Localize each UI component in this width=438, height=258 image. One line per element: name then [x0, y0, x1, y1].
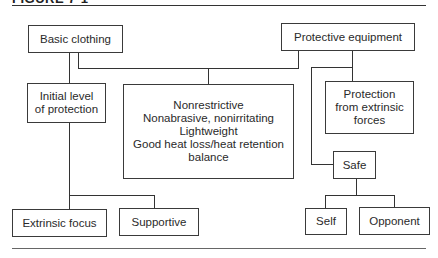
node-supportive: Supportive	[119, 208, 199, 236]
connector	[352, 50, 353, 81]
node-label: Protective equipment	[294, 31, 402, 44]
node-label: Self	[316, 215, 336, 228]
node-label: Extrinsic focus	[22, 217, 96, 230]
top-rule	[12, 5, 426, 6]
node-initial-level-of-protection: Initial level of protection	[27, 83, 106, 123]
node-label: Initial level of protection	[35, 90, 98, 116]
node-protection-extrinsic-forces: Protection from extrinsic forces	[325, 81, 414, 134]
node-self: Self	[305, 208, 347, 235]
connector	[78, 68, 299, 69]
node-opponent: Opponent	[359, 207, 430, 235]
node-label: Nonrestrictive Nonabrasive, nonirritatin…	[133, 99, 284, 164]
node-label: Safe	[343, 159, 367, 172]
connector	[311, 164, 333, 165]
node-protective-equipment: Protective equipment	[281, 23, 415, 51]
bottom-rule	[12, 248, 426, 249]
connector	[298, 50, 299, 68]
connector	[69, 195, 155, 196]
connector	[311, 67, 352, 68]
connector	[311, 67, 312, 165]
connector	[356, 178, 357, 195]
node-extrinsic-focus: Extrinsic focus	[12, 209, 107, 237]
connector	[154, 195, 155, 208]
connector	[208, 68, 209, 84]
connector	[78, 52, 79, 68]
node-label: Opponent	[369, 215, 420, 228]
node-safe: Safe	[333, 151, 376, 179]
node-basic-clothing: Basic clothing	[28, 25, 123, 53]
connector	[325, 195, 395, 196]
node-properties: Nonrestrictive Nonabrasive, nonirritatin…	[123, 84, 294, 179]
node-label: Basic clothing	[40, 33, 111, 46]
connector	[69, 52, 70, 209]
node-label: Supportive	[132, 216, 187, 229]
connector	[325, 195, 326, 208]
node-label: Protection from extrinsic forces	[335, 88, 403, 127]
